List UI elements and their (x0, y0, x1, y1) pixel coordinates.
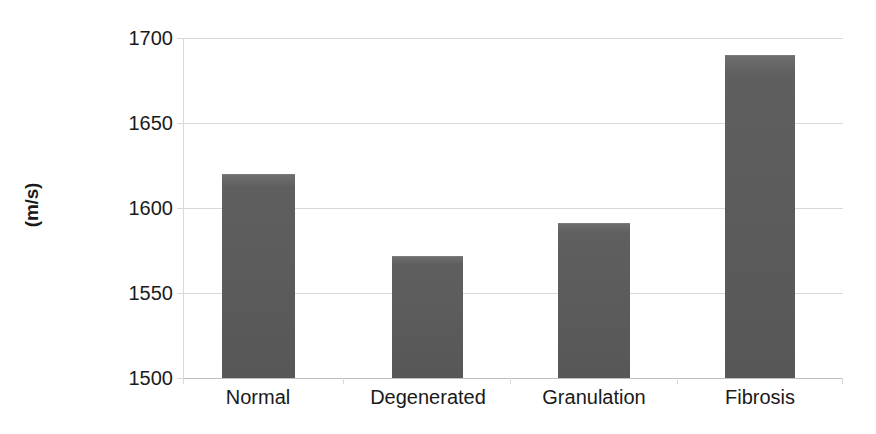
y-axis-title: (m/s) (0, 150, 64, 260)
plot-area (183, 38, 843, 378)
bar-degenerated[interactable] (392, 256, 463, 378)
x-tick-mark (677, 378, 678, 384)
x-axis-line (183, 378, 843, 379)
y-tick-label: 1650 (93, 112, 173, 135)
y-tick-mark (177, 123, 183, 124)
y-tick-mark (177, 208, 183, 209)
y-tick-mark (177, 38, 183, 39)
y-tick-label: 1600 (93, 197, 173, 220)
x-tick-label-granulation: Granulation (542, 386, 645, 409)
bar-normal[interactable] (222, 174, 295, 378)
y-tick-label: 1700 (93, 27, 173, 50)
y-axis-title-label: (m/s) (21, 183, 43, 227)
x-tick-mark (343, 378, 344, 384)
y-axis-tick-labels: 1700 1650 1600 1550 1500 (93, 38, 173, 378)
y-tick-mark (177, 293, 183, 294)
x-tick-mark (183, 378, 184, 384)
x-tick-mark (842, 378, 843, 384)
y-tick-label: 1550 (93, 282, 173, 305)
y-tick-label: 1500 (93, 367, 173, 390)
x-tick-label-degenerated: Degenerated (370, 386, 486, 409)
x-tick-mark (510, 378, 511, 384)
x-tick-label-fibrosis: Fibrosis (725, 386, 795, 409)
bar-granulation[interactable] (558, 223, 630, 378)
bar-fibrosis[interactable] (725, 55, 795, 378)
x-tick-label-normal: Normal (226, 386, 290, 409)
gridline-1700 (183, 38, 843, 39)
bar-chart: (m/s) 1700 1650 1600 1550 1500 (0, 0, 876, 434)
x-axis-tick-labels: Normal Degenerated Granulation Fibrosis (183, 386, 843, 416)
